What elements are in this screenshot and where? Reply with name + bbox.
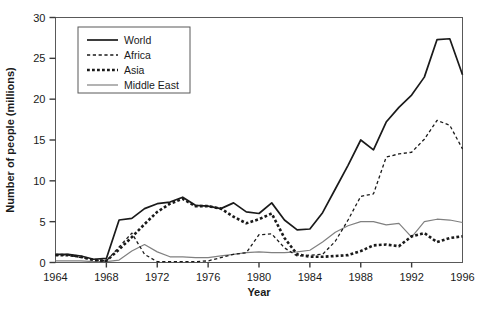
- y-axis-title: Number of people (millions): [4, 67, 16, 213]
- y-axis: 051015202530: [33, 12, 55, 269]
- legend-label-asia: Asia: [124, 64, 145, 76]
- y-tick-label: 25: [33, 52, 45, 64]
- x-tick-label: 1972: [145, 271, 169, 283]
- legend: WorldAfricaAsiaMiddle East: [78, 27, 190, 93]
- y-tick-label: 10: [33, 175, 45, 187]
- chart-figure: 0510152025301964196819721976198019841988…: [0, 0, 481, 310]
- legend-label-africa: Africa: [124, 49, 151, 61]
- legend-label-world: World: [124, 34, 151, 46]
- x-tick-label: 1964: [43, 271, 67, 283]
- x-tick-label: 1976: [196, 271, 220, 283]
- x-tick-label: 1992: [399, 271, 423, 283]
- y-tick-label: 0: [39, 257, 45, 269]
- y-tick-label: 20: [33, 93, 45, 105]
- y-tick-label: 15: [33, 134, 45, 146]
- x-axis-title: Year: [247, 286, 271, 298]
- legend-label-middle-east: Middle East: [124, 79, 179, 91]
- x-tick-label: 1988: [349, 271, 373, 283]
- y-tick-label: 5: [39, 216, 45, 228]
- x-tick-label: 1968: [94, 271, 118, 283]
- x-tick-label: 1980: [247, 271, 271, 283]
- x-tick-label: 1996: [450, 271, 474, 283]
- y-tick-label: 30: [33, 12, 45, 24]
- x-tick-label: 1984: [298, 271, 322, 283]
- line-chart: 0510152025301964196819721976198019841988…: [0, 0, 481, 310]
- x-axis: 196419681972197619801984198819921996: [43, 263, 474, 283]
